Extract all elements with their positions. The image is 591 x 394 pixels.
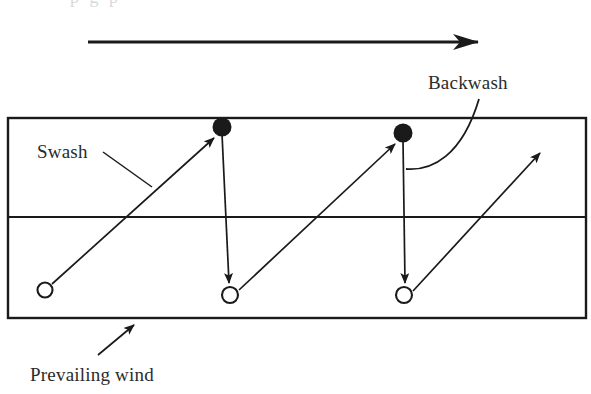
- pebble-start-1: [38, 283, 53, 298]
- swash-leader-line: [103, 152, 152, 187]
- pebble-start-2: [222, 287, 238, 303]
- backwash-label: Backwash: [428, 72, 508, 94]
- swash-arrow-3: [413, 153, 540, 291]
- backwash-leader-curve: [406, 99, 479, 169]
- backwash-arrow-1: [222, 134, 229, 283]
- pebble-peak-2: [394, 124, 413, 143]
- diagram-canvas: [0, 0, 591, 394]
- longshore-drift-diagram: p g p: [0, 0, 591, 394]
- pebble-start-3: [396, 287, 412, 303]
- pebble-peak-1: [213, 118, 232, 137]
- swash-label: Swash: [37, 141, 88, 163]
- backwash-arrow-2: [403, 140, 405, 283]
- prevailing-wind-label: Prevailing wind: [30, 364, 154, 386]
- prevailing-wind-leader-arrow: [98, 325, 134, 355]
